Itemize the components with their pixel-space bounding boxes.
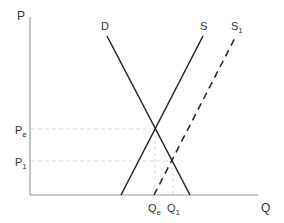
supply-shifted-label: S1 xyxy=(231,20,243,35)
supply-shifted-curve xyxy=(154,36,236,195)
p1-label: P1 xyxy=(15,156,27,171)
supply-label: S xyxy=(200,20,207,32)
demand-label: D xyxy=(101,20,109,32)
supply-demand-diagram: P Q D S S1 Pe P1 Qe Q1 xyxy=(0,0,284,223)
demand-curve xyxy=(107,36,190,195)
supply-curve xyxy=(121,36,203,195)
qe-label: Qe xyxy=(148,202,162,217)
pe-label: Pe xyxy=(15,124,27,139)
y-axis-label: P xyxy=(17,9,25,23)
x-axis-label: Q xyxy=(261,201,270,215)
q1-label: Q1 xyxy=(167,202,181,217)
